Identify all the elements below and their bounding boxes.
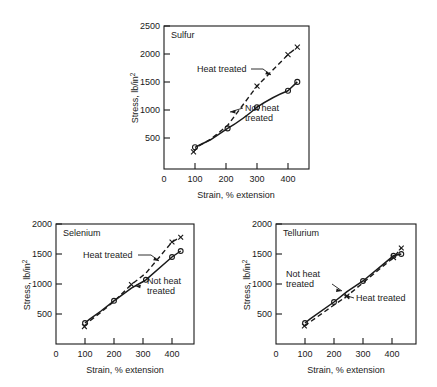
y-tick-label-selenium-1500: 1500 (32, 249, 52, 259)
y-tick-label-tellurium-2000: 2000 (252, 219, 272, 229)
x-ticks-selenium (85, 338, 172, 344)
x-tick-label-tellurium-300: 300 (355, 349, 370, 359)
annotation-heat-treated-sulfur: Heat treated (197, 64, 247, 74)
y-axis-title-selenium-exponent: 2 (21, 259, 28, 263)
y-ticks-sulfur (164, 26, 170, 138)
leader-arrow-not-heat-treated-sulfur (230, 110, 236, 114)
annotation-not-heat-treated-selenium-line1: Not heat (147, 276, 182, 286)
svg-text:Stress, lb/in2: Stress, lb/in2 (241, 259, 253, 310)
y-tick-label-sulfur-2000: 2000 (140, 49, 160, 59)
x-tick-label-sulfur-100: 100 (187, 174, 202, 184)
y-axis-title-sulfur: Stress, lb/in2 (129, 72, 141, 123)
x-tick-labels-sulfur: 0 100 200 300 400 (161, 174, 295, 184)
x-tick-label-selenium-300: 300 (135, 349, 150, 359)
x-axis-title-tellurium: Strain, % extension (307, 365, 385, 375)
y-axis-title-tellurium-text: Stress, lb/in (242, 263, 252, 310)
annotation-not-heat-treated-tellurium-line1: Not heat (286, 269, 321, 279)
chart-panel-selenium: 2000 1500 1000 500 Selenium (8, 205, 208, 385)
y-tick-label-sulfur-1500: 1500 (140, 77, 160, 87)
svg-text:Stress, lb/in2: Stress, lb/in2 (129, 72, 141, 123)
y-axis-title-selenium-text: Stress, lb/in (22, 263, 32, 310)
y-axis-title-selenium: Stress, lb/in2 (21, 259, 33, 310)
y-tick-label-tellurium-1500: 1500 (252, 249, 272, 259)
x-tick-labels-selenium: 0 100 200 300 400 (53, 349, 179, 359)
y-axis-title-sulfur-exponent: 2 (129, 72, 136, 76)
annotation-not-heat-treated-sulfur-line1: Not heat (245, 103, 280, 113)
annotation-heat-treated-tellurium: Heat treated (356, 293, 406, 303)
x-tick-label-selenium-200: 200 (106, 349, 121, 359)
y-tick-label-selenium-2000: 2000 (32, 219, 52, 229)
x-tick-label-selenium-400: 400 (164, 349, 179, 359)
panel-title-tellurium: Tellurium (283, 228, 319, 238)
x-tick-label-tellurium-100: 100 (297, 349, 312, 359)
annotation-not-heat-treated-sulfur-line2: treated (245, 113, 273, 123)
y-axis-title-sulfur-text: Stress, lb/in (130, 76, 140, 123)
x-tick-label-sulfur-300: 300 (249, 174, 264, 184)
panel-title-sulfur: Sulfur (171, 30, 195, 40)
y-tick-label-selenium-500: 500 (37, 309, 52, 319)
y-axis-title-tellurium: Stress, lb/in2 (241, 259, 253, 310)
x-tick-label-selenium-100: 100 (77, 349, 92, 359)
plot-frame-sulfur (164, 26, 309, 169)
chart-panel-sulfur: 2500 2000 1500 1000 500 (124, 8, 324, 208)
y-tick-label-sulfur-1000: 1000 (140, 105, 160, 115)
y-tick-label-sulfur-500: 500 (145, 133, 160, 143)
x-tick-label-selenium-0: 0 (53, 349, 58, 359)
annotation-not-heat-treated-tellurium-line2: treated (286, 279, 314, 289)
x-axis-title-selenium: Strain, % extension (86, 365, 164, 375)
x-tick-labels-tellurium: 0 100 200 300 400 (273, 349, 399, 359)
x-axis-title-sulfur: Strain, % extension (197, 190, 275, 200)
x-tick-label-sulfur-0: 0 (161, 174, 166, 184)
x-tick-label-sulfur-200: 200 (218, 174, 233, 184)
x-tick-label-tellurium-400: 400 (384, 349, 399, 359)
y-ticks-selenium (56, 224, 62, 314)
panel-title-selenium: Selenium (63, 228, 101, 238)
y-tick-label-selenium-1000: 1000 (32, 279, 52, 289)
three-panel-stress-strain-figure: 2500 2000 1500 1000 500 (0, 0, 437, 387)
x-tick-label-sulfur-400: 400 (280, 174, 295, 184)
svg-text:Stress, lb/in2: Stress, lb/in2 (21, 259, 33, 310)
series-line-heat-treated-sulfur (194, 47, 298, 152)
y-tick-label-sulfur-2500: 2500 (140, 21, 160, 31)
y-axis-title-tellurium-exponent: 2 (241, 259, 248, 263)
x-ticks-tellurium (305, 338, 392, 344)
annotation-heat-treated-selenium: Heat treated (83, 250, 133, 260)
y-tick-label-tellurium-500: 500 (257, 309, 272, 319)
x-tick-label-tellurium-0: 0 (273, 349, 278, 359)
series-markers-heat-treated-sulfur (191, 45, 300, 155)
y-ticks-tellurium (276, 224, 282, 314)
y-tick-label-tellurium-1000: 1000 (252, 279, 272, 289)
x-ticks-sulfur (195, 163, 288, 169)
annotation-not-heat-treated-selenium-line2: treated (147, 286, 175, 296)
chart-panel-tellurium: 2000 1500 1000 500 Tellurium (228, 205, 433, 385)
series-line-not-heat-treated-tellurium (305, 254, 401, 323)
x-tick-label-tellurium-200: 200 (326, 349, 341, 359)
